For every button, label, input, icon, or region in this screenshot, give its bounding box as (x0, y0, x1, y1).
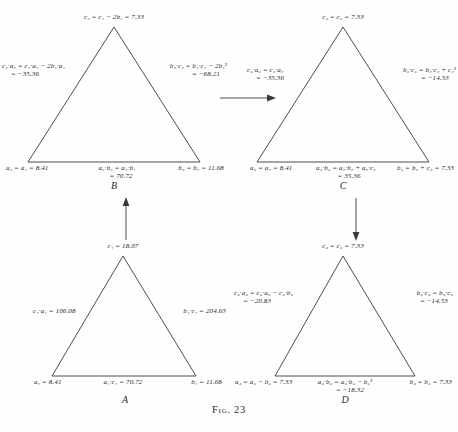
label-b-right: b₂·c₂ = b₁·c₁ − 2b₁² = −68.21 (170, 62, 227, 79)
label-d-apex: c₄ = c₃ = 7.33 (322, 242, 364, 250)
label-a-right: b₁·c₁ = 204.63 (183, 307, 226, 315)
arrow-a-to-b-icon (116, 196, 136, 242)
arrow-c-to-d-icon (346, 196, 366, 242)
label-a-apex: c₁ = 18.07 (108, 242, 139, 250)
triangle-panel-c: c₃ = c₂ = 7.33 c₃·a₃ = c₂·a₂ = −35.36 b₃… (229, 0, 458, 216)
triangle-name-d: D (341, 394, 348, 405)
figure-23-diagram: c₂ = c₁ − 2b₁ = 7.33 c₂·a₂ = c₁·a₁ − 2b₁… (0, 0, 458, 432)
label-d-bottom-right: b₄ = b₃ = 7.33 (409, 378, 452, 386)
triangle-name-b: B (111, 180, 117, 191)
label-d-right: b₄·c₄ = b₃·c₃ = −14.53 (417, 289, 453, 306)
triangle-name-a: A (122, 394, 128, 405)
label-b-left: c₂·a₂ = c₁·a₁ − 2b₁·a₁ = −35.36 (2, 62, 65, 79)
label-c-bottom-mid: a₃·b₃ = a₂·b₂ + a₂·c₂ = 35.36 (316, 164, 376, 181)
label-a-bottom-mid: a₁·c₁ = 70.72 (104, 378, 143, 386)
label-a-bottom-left: a₁ = 8.41 (34, 378, 62, 386)
triangle-panel-b: c₂ = c₁ − 2b₁ = 7.33 c₂·a₂ = c₁·a₁ − 2b₁… (0, 0, 229, 216)
label-c-bottom-left: a₃ = a₂ = 8.41 (250, 164, 293, 172)
label-b-bottom-mid: a₂·b₂ = a₁·b₁ = 70.72 (98, 164, 135, 181)
triangle-panel-d: c₄ = c₃ = 7.33 c₄·a₄ = c₃·a₃ − c₃·b₃ = −… (229, 230, 458, 432)
label-a-left: c₁·a₁ = 106.08 (33, 307, 76, 315)
label-c-apex: c₃ = c₂ = 7.33 (322, 13, 364, 21)
triangle-panel-a: c₁ = 18.07 c₁·a₁ = 106.08 b₁·c₁ = 204.63… (0, 230, 229, 432)
triangle-name-c: C (340, 180, 347, 191)
label-c-left: c₃·a₃ = c₂·a₂ = −35.36 (247, 66, 284, 83)
label-b-bottom-left: a₂ = a₁ = 8.41 (6, 164, 49, 172)
figure-caption: Fig. 23 (212, 404, 246, 415)
label-a-bottom-right: b₁ = 11.68 (191, 378, 222, 386)
label-b-bottom-right: b₂ = b₁ = 11.68 (178, 164, 224, 172)
label-d-bottom-left: a₄ = a₃ − b₃ = 7.33 (235, 378, 292, 386)
label-d-bottom-mid: a₄·b₄ = a₃·b₃ − b₃² = −18.32 (318, 378, 372, 395)
arrow-b-to-c-icon (218, 88, 280, 108)
label-c-bottom-right: b₃ = b₂ + c₂ = 7.33 (397, 164, 454, 172)
triangle-shape-a (0, 230, 229, 432)
label-c-right: b₃·c₃ = b₂·c₂ + c₂² = −14.53 (403, 66, 456, 83)
label-d-left: c₄·a₄ = c₃·a₃ − c₃·b₃ = −20.83 (234, 289, 293, 306)
label-b-apex: c₂ = c₁ − 2b₁ = 7.33 (84, 13, 144, 21)
